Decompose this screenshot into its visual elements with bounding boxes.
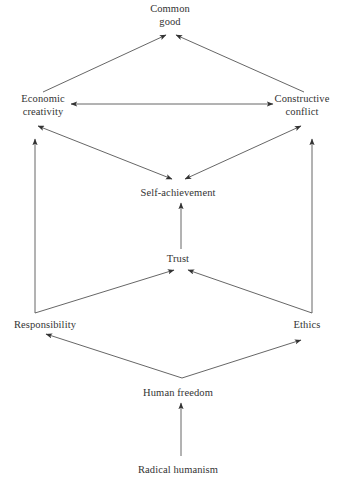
edge-freedom-to-responsibility (46, 334, 182, 378)
node-constructive-conflict: Constructive conflict (268, 92, 336, 118)
edge-ethics-to-trust (188, 270, 312, 313)
diagram-edges (0, 0, 337, 487)
edge-economic-self (38, 126, 172, 179)
node-ethics: Ethics (284, 318, 330, 331)
node-economic-creativity: Economic creativity (6, 92, 80, 118)
node-radical-humanism: Radical humanism (118, 463, 238, 476)
edge-constructive-to-common-good (176, 35, 304, 92)
edge-self-constructive (185, 126, 301, 179)
edge-economic-to-common-good (43, 35, 166, 92)
node-common-good: Common good (138, 2, 202, 28)
node-human-freedom: Human freedom (128, 386, 228, 399)
edge-freedom-to-ethics (182, 340, 301, 378)
edge-responsibility-to-trust (35, 270, 174, 313)
node-responsibility: Responsibility (0, 318, 90, 331)
node-self-achievement: Self-achievement (128, 186, 228, 199)
diagram-canvas: Common good Economic creativity Construc… (0, 0, 337, 487)
node-trust: Trust (148, 252, 208, 265)
